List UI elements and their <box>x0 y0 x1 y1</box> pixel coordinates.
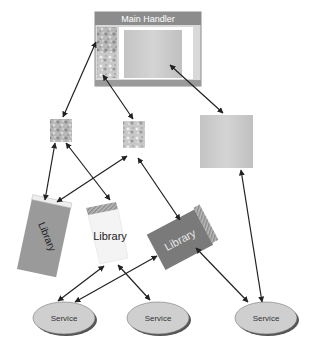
main-handler-title: Main Handler <box>121 14 175 24</box>
arrow-lib2-to-service1 <box>58 266 104 301</box>
service-1: Service <box>33 302 97 336</box>
component-middle <box>123 121 145 148</box>
library-2: Library <box>86 202 128 264</box>
service-2: Service <box>127 302 191 336</box>
component-right <box>200 115 253 168</box>
library-2-label: Library <box>93 230 127 242</box>
service-3: Service <box>235 302 299 336</box>
handler-panel <box>124 30 182 78</box>
arrow-middle-to-lib1 <box>57 156 127 202</box>
arrow-lib2-to-service2 <box>118 265 150 300</box>
service-3-label: Service <box>253 314 280 323</box>
arrow-right-to-service3 <box>241 170 262 302</box>
library-1: Library <box>17 195 72 278</box>
arrow-left-to-lib1 <box>45 143 55 200</box>
component-left <box>50 119 72 142</box>
arrow-lib3-to-service3 <box>196 248 248 302</box>
handler-tile-top <box>97 27 117 51</box>
architecture-diagram: Main Handler Library Library Library Ser… <box>0 0 311 350</box>
service-2-label: Service <box>145 314 172 323</box>
arrow-handler-to-left <box>63 42 96 117</box>
main-handler: Main Handler <box>95 12 201 86</box>
arrow-middle-to-lib3 <box>138 158 180 220</box>
service-1-label: Service <box>51 314 78 323</box>
handler-tile-bottom <box>97 51 117 78</box>
